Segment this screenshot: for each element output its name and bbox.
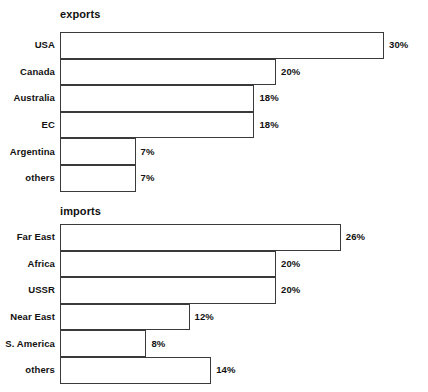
bar-exports-others: [60, 165, 136, 192]
exports-chart: exports USA30%Canada20%Australia18%EC18%…: [0, 0, 428, 200]
imports-chart-title: imports: [60, 205, 101, 217]
category-label: others: [0, 172, 55, 183]
value-label: 7%: [141, 146, 155, 157]
value-label: 30%: [389, 39, 408, 50]
category-label: EC: [0, 119, 55, 130]
category-label: Australia: [0, 92, 55, 103]
exports-chart-title: exports: [60, 8, 100, 20]
value-label: 20%: [281, 284, 300, 295]
bar-exports-argentina: [60, 138, 136, 165]
bar-exports-ec: [60, 112, 254, 139]
category-label: others: [0, 364, 55, 375]
value-label: 20%: [281, 258, 300, 269]
value-label: 20%: [281, 66, 300, 77]
value-label: 8%: [151, 338, 165, 349]
category-label: USSR: [0, 284, 55, 295]
category-label: USA: [0, 39, 55, 50]
value-label: 26%: [346, 231, 365, 242]
bar-row: Far East26%: [0, 224, 428, 251]
category-label: Argentina: [0, 146, 55, 157]
category-label: S. America: [0, 338, 55, 349]
bar-row: Canada20%: [0, 59, 428, 86]
category-label: Canada: [0, 66, 55, 77]
bar-row: S. America8%: [0, 330, 428, 357]
bar-row: others14%: [0, 357, 428, 384]
bar-row: USA30%: [0, 32, 428, 59]
value-label: 18%: [259, 92, 278, 103]
bar-imports-ussr: [60, 277, 276, 304]
bar-row: Argentina7%: [0, 138, 428, 165]
bar-row: others7%: [0, 165, 428, 192]
bar-row: Africa20%: [0, 251, 428, 278]
value-label: 18%: [259, 119, 278, 130]
bar-exports-australia: [60, 85, 254, 112]
category-label: Near East: [0, 311, 55, 322]
bar-imports-far-east: [60, 224, 341, 251]
category-label: Far East: [0, 231, 55, 242]
bar-imports-s-america: [60, 330, 146, 357]
bar-exports-canada: [60, 59, 276, 86]
value-label: 14%: [216, 364, 235, 375]
imports-chart: imports Far East26%Africa20%USSR20%Near …: [0, 199, 428, 392]
bar-imports-africa: [60, 251, 276, 278]
value-label: 12%: [195, 311, 214, 322]
bar-imports-others: [60, 357, 211, 384]
bar-row: EC18%: [0, 112, 428, 139]
category-label: Africa: [0, 258, 55, 269]
bar-row: Near East12%: [0, 304, 428, 331]
bar-row: USSR20%: [0, 277, 428, 304]
bar-exports-usa: [60, 32, 384, 59]
bar-row: Australia18%: [0, 85, 428, 112]
value-label: 7%: [141, 172, 155, 183]
chart-canvas: exports USA30%Canada20%Australia18%EC18%…: [0, 0, 428, 392]
bar-imports-near-east: [60, 304, 190, 331]
